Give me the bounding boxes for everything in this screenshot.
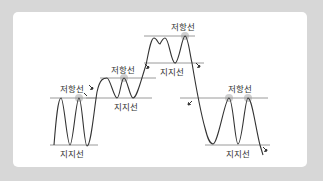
stage-3-resistance-label: 저항선 <box>171 22 195 32</box>
arrow-icon <box>89 85 93 90</box>
arrow-icon <box>196 63 200 68</box>
stage-1-support-label: 지지선 <box>60 149 84 159</box>
stage-4-support-label: 지지선 <box>226 149 250 159</box>
arrow-icon <box>188 101 192 105</box>
stage-1-resistance-label: 저항선 <box>60 84 84 94</box>
arrow-icon <box>263 147 267 152</box>
support-resistance-diagram: 저항선 지지선 저항선 지지선 저항선 지지선 저항선 지지선 <box>0 0 323 181</box>
arrow-icon <box>84 93 87 96</box>
stage-3-support-label: 지지선 <box>160 67 184 77</box>
stage-4-resistance-label: 저항선 <box>228 84 252 94</box>
stage-2-resistance-label: 저항선 <box>111 65 135 75</box>
stage-2-support-label: 지지선 <box>114 102 138 112</box>
